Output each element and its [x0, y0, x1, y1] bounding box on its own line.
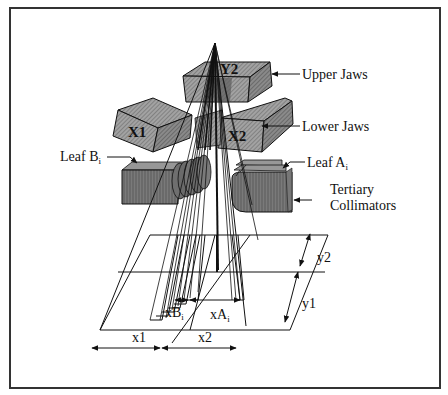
diagram-canvas: Y2 X1 X2: [0, 0, 448, 395]
y1-label: y1: [302, 296, 316, 311]
lower-jaw-left-label: X1: [128, 124, 146, 140]
y2-label: y2: [317, 250, 331, 265]
leaf-b-callout: Leaf Bi: [60, 149, 101, 166]
upper-jaw-block: Y2: [183, 61, 272, 102]
tertiary-callout-line2: Collimators: [330, 198, 396, 213]
lower-jaws-callout: Lower Jaws: [302, 119, 369, 134]
lower-jaw-left-block: X1: [113, 98, 192, 152]
xb-label: xBi: [165, 305, 184, 322]
upper-jaw-label: Y2: [220, 61, 238, 77]
x1-label: x1: [132, 330, 146, 345]
xa-label: xAi: [210, 307, 230, 324]
tertiary-callout-line1: Tertiary: [330, 182, 374, 197]
collimator-diagram: Y2 X1 X2: [0, 0, 448, 395]
leaf-bank-b: [122, 155, 211, 204]
x2-label: x2: [198, 330, 212, 345]
upper-jaws-callout: Upper Jaws: [302, 67, 368, 82]
leaf-a-callout: Leaf Ai: [307, 155, 348, 172]
